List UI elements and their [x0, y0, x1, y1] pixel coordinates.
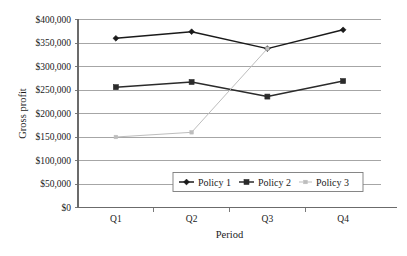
legend-label-2[interactable]: Policy 2	[258, 177, 291, 188]
line-chart: $0$50,000$100,000$150,000$200,000$250,00…	[0, 0, 407, 256]
y-axis-tick-label: $300,000	[35, 62, 71, 72]
legend-label-3[interactable]: Policy 3	[316, 177, 349, 188]
y-axis-tick-label: $400,000	[35, 15, 71, 25]
series-marker-3	[114, 135, 118, 139]
y-axis-tick-label: $50,000	[40, 179, 71, 189]
series-marker-2	[265, 94, 270, 99]
x-axis-tick-label: Q4	[337, 214, 349, 224]
y-axis-title: Gross profit	[17, 88, 28, 139]
y-axis-tick-label: $100,000	[35, 156, 71, 166]
series-marker-2	[341, 79, 346, 84]
series-marker-3	[190, 131, 194, 135]
chart-container: $0$50,000$100,000$150,000$200,000$250,00…	[0, 0, 407, 256]
legend-marker-3	[304, 180, 308, 184]
chart-legend[interactable]: Policy 1Policy 2Policy 3	[173, 173, 363, 192]
x-axis-tick-label: Q2	[186, 214, 198, 224]
y-axis-tick-label: $0	[62, 203, 72, 213]
series-marker-2	[189, 80, 194, 85]
y-axis-tick-label: $250,000	[35, 85, 71, 95]
series-marker-3	[266, 47, 270, 51]
x-axis-tick-label: Q1	[110, 214, 122, 224]
y-axis-tick-label: $150,000	[35, 132, 71, 142]
y-axis-tick-labels-group: $0$50,000$100,000$150,000$200,000$250,00…	[35, 15, 71, 213]
legend-label-1[interactable]: Policy 1	[198, 177, 231, 188]
y-axis-tick-label: $200,000	[35, 109, 71, 119]
legend-marker-2	[244, 180, 249, 185]
x-axis-title: Period	[216, 229, 244, 240]
y-axis-tick-label: $350,000	[35, 38, 71, 48]
series-marker-2	[113, 85, 118, 90]
x-axis-tick-label: Q3	[262, 214, 274, 224]
